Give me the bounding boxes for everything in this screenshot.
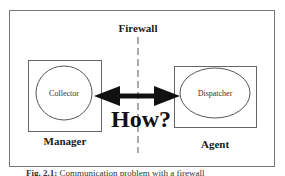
how-question-label: How? [111, 106, 171, 132]
agent-label: Agent [201, 138, 229, 150]
dispatcher-label: Dispatcher [198, 89, 233, 98]
firewall-diagram: Firewall Collector Manager Dispatcher Ag… [0, 0, 285, 176]
caption-prefix: Fig. 2.1: [26, 168, 57, 176]
double-arrow-icon [94, 86, 180, 106]
firewall-label: Firewall [119, 22, 158, 34]
manager-label: Manager [44, 135, 87, 147]
caption-text: Communication problem with a firewall [60, 168, 205, 176]
figure-caption: Fig. 2.1: Communication problem with a f… [26, 168, 204, 176]
collector-label: Collector [49, 89, 79, 98]
